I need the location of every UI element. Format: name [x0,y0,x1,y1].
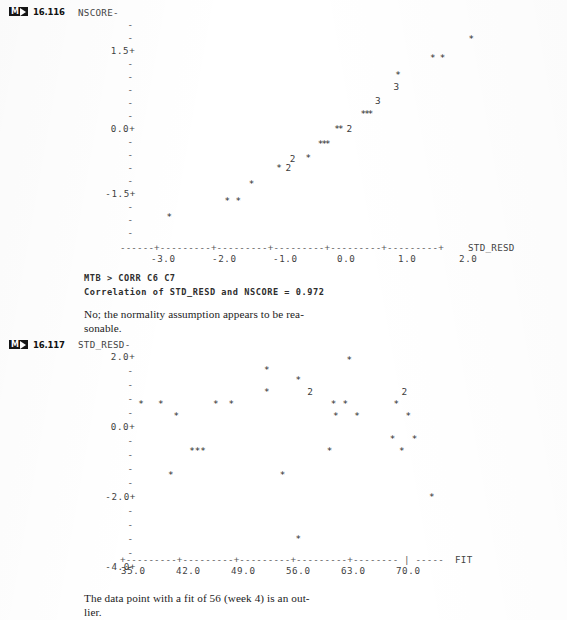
y-axis-minor-tick: - [127,450,133,459]
data-point: * [229,399,235,408]
y-axis-minor-tick: - [127,394,133,403]
y-axis-minor-tick: - [127,464,133,473]
y-axis-minor-tick: - [127,436,133,445]
y-axis-minor-tick: - [127,85,133,94]
x-axis-tick-label: 2.0 [459,254,477,263]
data-point-cluster: 3 [393,82,399,91]
data-point: * [327,446,333,455]
y-axis-variable-name: NSCORE- [78,8,119,17]
x-axis-tick-label: 49.0 [231,566,256,575]
y-axis-tick-label: 2.0+ [111,352,136,361]
data-point: * [280,470,286,479]
data-point: * [213,399,219,408]
x-axis-tick-label: 42.0 [176,566,201,575]
y-axis-minor-tick: - [127,408,133,417]
y-axis-tick-label: 0.0+ [111,124,136,133]
data-point-cluster: 2 [307,387,313,396]
data-point: * [346,355,352,364]
data-point: * [354,411,360,420]
data-point-cluster: 2 [401,387,407,396]
x-axis-tick-label: 1.0 [398,254,416,263]
data-point: * [399,446,405,455]
data-point: * [429,492,435,501]
y-axis-minor-tick: - [127,534,133,543]
data-point: * [368,109,374,118]
answer-text-first: No; the normality assumption appears to … [84,308,384,335]
data-point: * [235,196,241,205]
y-axis-minor-tick: - [127,202,133,211]
x-axis-line: ------+---------+---------+---------+---… [120,243,444,252]
residual-versus-fit-plot: STD_RESD-2.0+----0.0+-----2.0+-----4.0+*… [0,336,567,592]
data-point: * [405,411,411,420]
y-axis-minor-tick: - [127,111,133,120]
minitab-command-line: MTB > CORR C6 C7 [84,272,176,285]
data-point: * [174,411,180,420]
y-axis-minor-tick: - [127,366,133,375]
y-axis-tick-label: -2.0+ [105,492,136,501]
data-point: * [412,434,418,443]
y-axis-minor-tick: - [127,59,133,68]
data-point: * [158,399,164,408]
data-point: * [276,163,282,172]
y-axis-minor-tick: - [127,520,133,529]
data-point: * [331,399,337,408]
data-point: * [264,365,270,374]
y-axis-minor-tick: - [127,137,133,146]
y-axis-minor-tick: - [127,20,133,29]
data-point: * [249,179,255,188]
data-point-cluster: 2 [346,124,352,133]
data-point: * [333,411,339,420]
data-point-cluster: 3 [375,96,381,105]
data-point: * [468,34,474,43]
x-axis-line: +---------+---------+---------+---------… [120,555,444,564]
x-axis-tick-label: 0.0 [337,254,355,263]
x-axis-tick-label: 35.0 [121,566,146,575]
data-point: * [338,124,344,133]
data-point: * [390,434,396,443]
data-point: * [224,196,230,205]
y-axis-minor-tick: - [127,228,133,237]
y-axis-minor-tick: - [127,176,133,185]
data-point-cluster: 2 [285,163,291,172]
x-axis-tick-label: 63.0 [341,566,366,575]
data-point: * [295,534,301,543]
y-axis-tick-label: -1.5+ [105,189,136,198]
normal-probability-plot: NSCORE---1.5+-----0.0+-----1.5+---*****2… [0,0,567,275]
x-axis-variable-name: FIT [455,555,473,564]
data-point: * [295,375,301,384]
y-axis-variable-name: STD_RESD- [78,340,130,349]
x-axis-tick-label: -1.0 [273,254,298,263]
y-axis-minor-tick: - [127,478,133,487]
y-axis-minor-tick: - [127,215,133,224]
data-point-cluster: 2 [290,154,296,163]
data-point: * [343,399,349,408]
data-point: * [430,53,436,62]
y-axis-minor-tick: - [127,72,133,81]
data-point: * [138,399,144,408]
y-axis-minor-tick: - [127,380,133,389]
x-axis-tick-label: 56.0 [286,566,311,575]
y-axis-minor-tick: - [127,163,133,172]
data-point: * [200,446,206,455]
x-axis-tick-label: -2.0 [212,254,237,263]
answer-text-second: The data point with a fit of 56 (week 4)… [84,592,404,619]
data-point: * [168,470,174,479]
data-point: * [264,387,270,396]
x-axis-tick-label: -3.0 [151,254,176,263]
data-point: * [395,70,401,79]
y-axis-tick-label: 0.0+ [111,422,136,431]
y-axis-minor-tick: - [127,506,133,515]
data-point: * [440,53,446,62]
y-axis-minor-tick: - [127,98,133,107]
x-axis-variable-name: STD_RESD [468,243,515,252]
data-point: * [394,399,400,408]
x-axis-tick-label: 70.0 [396,566,421,575]
y-axis-tick-label: 1.5+ [111,46,136,55]
y-axis-minor-tick: - [127,33,133,42]
data-point: * [167,212,173,221]
minitab-correlation-output: Correlation of STD_RESD and NSCORE = 0.9… [84,286,324,299]
data-point: * [325,139,331,148]
y-axis-minor-tick: - [127,150,133,159]
data-point: * [306,153,312,162]
